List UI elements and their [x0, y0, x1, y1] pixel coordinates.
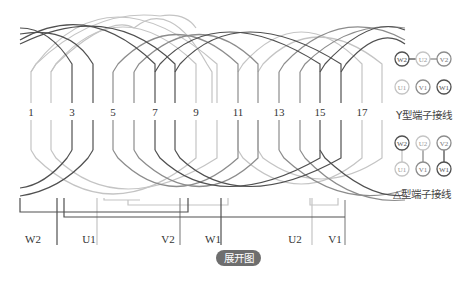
- slot-label: 1: [28, 106, 34, 118]
- terminal-label-u2: U2: [288, 233, 301, 245]
- expansion-diagram-badge: 展开图: [216, 250, 261, 266]
- slot-label: 15: [315, 106, 327, 118]
- slot-label: 17: [357, 106, 369, 118]
- delta-connection-label: △型端子接线: [393, 186, 451, 201]
- svg-text:U1: U1: [398, 84, 407, 92]
- terminal-label-u1: U1: [82, 233, 95, 245]
- slot-labels: 1 3 5 7 9 11 13 15 17: [28, 106, 368, 118]
- winding-expansion-diagram: 1 3 5 7 9 11 13 15 17 W2 U1 V2 W1 U2 V1 …: [0, 0, 475, 283]
- y-connection-label: Y型端子接线: [396, 107, 452, 122]
- svg-text:U1: U1: [398, 166, 407, 174]
- delta-connection-terminals: W2 U2 V2 U1 V1 W1: [395, 136, 451, 176]
- slot-label: 3: [69, 106, 75, 118]
- phase-w-coils: [20, 25, 405, 245]
- svg-text:V2: V2: [440, 140, 449, 148]
- terminal-label-w1: W1: [205, 233, 221, 245]
- phase-u-coils: [31, 15, 382, 245]
- svg-text:W2: W2: [397, 140, 408, 148]
- svg-text:W1: W1: [439, 166, 450, 174]
- slot-label: 13: [274, 106, 286, 118]
- slot-label: 11: [233, 106, 244, 118]
- svg-text:V1: V1: [419, 84, 428, 92]
- slot-label: 9: [193, 106, 199, 118]
- svg-text:U2: U2: [419, 56, 428, 64]
- terminal-label-v1: V1: [328, 233, 341, 245]
- svg-text:V1: V1: [419, 166, 428, 174]
- y-connection-terminals: W2 U2 V2 U1 V1 W1: [395, 52, 451, 94]
- svg-text:W1: W1: [439, 84, 450, 92]
- slot-label: 7: [152, 106, 158, 118]
- terminal-labels: W2 U1 V2 W1 U2 V1: [25, 233, 342, 245]
- slot-label: 5: [110, 106, 116, 118]
- terminal-label-v2: V2: [161, 233, 174, 245]
- svg-text:W2: W2: [397, 56, 408, 64]
- svg-text:V2: V2: [440, 56, 449, 64]
- svg-text:U2: U2: [419, 140, 428, 148]
- terminal-label-w2: W2: [25, 233, 41, 245]
